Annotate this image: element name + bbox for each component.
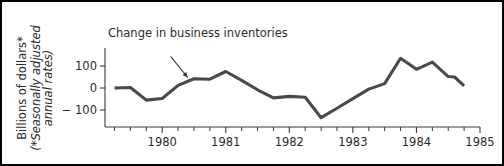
x-tick-label: 1980 xyxy=(148,135,177,149)
x-tick-label: 1982 xyxy=(275,135,304,149)
annotation-label: Change in business inventories xyxy=(108,26,288,40)
data-series-line xyxy=(115,58,465,117)
x-axis-ticks: 198019811982198319841985 xyxy=(115,127,495,149)
annotation-group: Change in business inventories xyxy=(108,26,288,77)
y-axis-title-group: Billions of dollars* (*Seasonally adjust… xyxy=(15,25,55,151)
y-axis-title-sub-line2: annual rates) xyxy=(41,50,55,127)
y-axis-title-main: Billions of dollars* xyxy=(15,36,29,140)
x-tick-label: 1981 xyxy=(211,135,240,149)
x-tick-label: 1984 xyxy=(402,135,431,149)
x-tick-label: 1983 xyxy=(338,135,367,149)
figure-frame: Billions of dollars* (*Seasonally adjust… xyxy=(0,0,504,166)
x-tick-label: 1985 xyxy=(465,135,494,149)
y-tick-label: − 100 xyxy=(62,103,97,117)
y-tick-label: 0 xyxy=(90,81,97,95)
y-tick-label: 100 xyxy=(75,59,97,73)
chart-canvas: Billions of dollars* (*Seasonally adjust… xyxy=(2,2,502,164)
y-axis-ticks: 1000− 100 xyxy=(62,59,105,117)
